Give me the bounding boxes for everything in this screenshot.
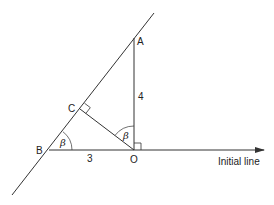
- point-label-b: B: [36, 145, 43, 156]
- point-label-c: C: [68, 103, 75, 114]
- angle-label-o: β: [122, 130, 129, 141]
- right-angle-mark-c: [85, 103, 91, 113]
- line-ab: [12, 13, 154, 195]
- initial-line-label: Initial line: [218, 156, 260, 167]
- point-label-a: A: [137, 36, 144, 47]
- length-label-ob: 3: [87, 153, 93, 164]
- right-angle-mark-o: [134, 143, 141, 150]
- point-label-o: O: [130, 154, 138, 165]
- geometry-diagram: A B C O 4 3 β β Initial line: [0, 0, 274, 205]
- length-label-oa: 4: [138, 91, 144, 102]
- angle-label-b: β: [59, 137, 66, 148]
